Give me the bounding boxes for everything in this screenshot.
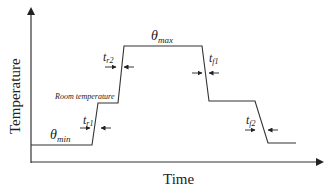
t-r1-label: tr1 bbox=[83, 113, 93, 128]
y-axis-label: Temperature bbox=[7, 58, 23, 134]
t-r2-label: tr2 bbox=[103, 50, 113, 65]
x-axis-label: Time bbox=[163, 171, 194, 187]
theta-min-label: θmin bbox=[50, 127, 71, 144]
t-f1-label: tf1 bbox=[209, 51, 219, 66]
temperature-profile-diagram: Time Temperature θmax θmin Room temperat… bbox=[0, 0, 333, 191]
t-f2-label: tf2 bbox=[246, 113, 256, 128]
room-temperature-label: Room temperature bbox=[54, 92, 115, 101]
theta-max-label: θmax bbox=[151, 28, 173, 45]
